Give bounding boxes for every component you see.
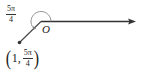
angle-label: 5π 4 [6, 4, 16, 24]
point-theta-numerator: 5π [23, 49, 33, 59]
close-paren: ) [33, 48, 38, 68]
angle-label-numerator: 5π [6, 5, 16, 15]
point-theta-denominator: 4 [26, 59, 30, 68]
open-paren: ( [6, 48, 11, 68]
terminal-side-segment [20, 22, 41, 43]
point-label: ( 1 , 5π 4 ) [5, 48, 39, 68]
angle-label-denominator: 4 [9, 15, 13, 24]
point-marker [18, 41, 22, 45]
point-separator: , [18, 51, 21, 66]
origin-label: O [42, 23, 50, 35]
